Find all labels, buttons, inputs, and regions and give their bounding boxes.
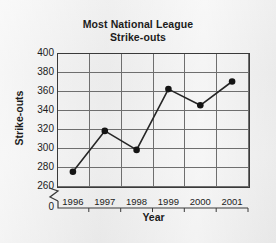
x-axis-tick-label: 1998 [120,196,154,207]
data-point-marker [102,128,109,135]
data-point-marker [229,78,236,85]
x-axis-tick-label: 1997 [88,196,122,207]
data-point-marker [133,147,140,154]
line-chart: Most National League Strike-outs Strike-… [0,0,276,243]
x-axis-tick-label: 1996 [56,196,90,207]
x-axis-tick-labels: 199619971998199920002001 [0,196,276,212]
x-axis-title: Year [57,211,250,223]
data-point-markers [70,78,236,175]
data-line [73,82,232,172]
x-axis-tick-label: 2000 [183,196,217,207]
x-axis-tick-label: 2001 [215,196,249,207]
data-point-marker [165,86,172,93]
data-point-marker [70,169,77,176]
x-axis-tick-label: 1999 [151,196,185,207]
data-point-marker [197,102,204,109]
